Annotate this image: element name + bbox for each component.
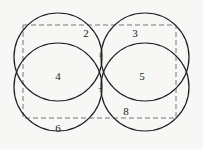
region-label-8: 8 <box>123 105 129 117</box>
region-label-1: 1 <box>99 52 102 58</box>
venn-diagram: 1 2 3 4 5 6 7 8 <box>0 0 203 149</box>
region-label-5: 5 <box>139 70 145 82</box>
region-label-4: 4 <box>55 70 61 82</box>
circle-top-left <box>14 13 102 101</box>
region-label-2: 2 <box>83 27 89 39</box>
region-label-6: 6 <box>55 122 61 134</box>
region-label-3: 3 <box>132 27 138 39</box>
region-label-7: 7 <box>99 87 102 93</box>
